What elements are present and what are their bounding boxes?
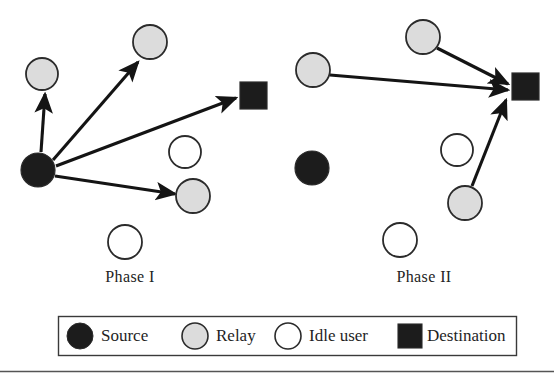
phase-one-panel <box>21 25 267 259</box>
phase-two-node-relay-top <box>406 20 440 54</box>
phase-two-node-source <box>295 151 329 185</box>
legend-symbol-source <box>67 323 93 349</box>
phase-two-node-destination <box>512 73 539 100</box>
phase-two-caption: Phase II <box>364 268 484 286</box>
phase-one-node-source <box>21 153 55 187</box>
phase-one-node-relay-top <box>133 25 167 59</box>
phase-one-node-relay-upper-left <box>26 58 58 90</box>
figure-root: Phase I Phase II Source Relay Idle user … <box>0 0 554 386</box>
phase-two-node-idle-user-middle <box>441 134 473 166</box>
arrow-relay-top-to-destination <box>437 48 508 84</box>
legend-label-destination: Destination <box>427 327 505 344</box>
arrow-relay-left-to-destination <box>330 75 508 90</box>
phase-two-node-relay-left <box>296 53 330 87</box>
legend-symbol-destination <box>398 324 422 348</box>
arrow-relay-lower-right-to-destination <box>472 100 506 186</box>
phase-two-node-relay-lower-right <box>448 186 482 220</box>
phase-one-node-idle-user-middle <box>169 136 201 168</box>
phase-one-caption: Phase I <box>70 268 190 286</box>
legend-symbol-idle-user <box>275 323 301 349</box>
phase-two-node-idle-user-bottom <box>383 223 417 257</box>
phase-one-node-idle-user-bottom <box>108 225 142 259</box>
phase-one-node-destination <box>240 82 267 109</box>
arrow-source-to-relay-upper-left <box>41 94 45 152</box>
phase-one-node-relay-lower-right <box>176 179 210 213</box>
arrow-source-to-destination <box>56 98 236 166</box>
arrow-source-to-relay-top <box>53 62 138 160</box>
legend-label-relay: Relay <box>216 327 256 344</box>
legend-label-idle-user: Idle user <box>309 327 368 344</box>
arrow-source-to-relay-lower-right <box>55 176 175 194</box>
legend-symbol-relay <box>182 323 208 349</box>
legend-label-source: Source <box>101 327 148 344</box>
phase-two-panel <box>295 20 539 257</box>
